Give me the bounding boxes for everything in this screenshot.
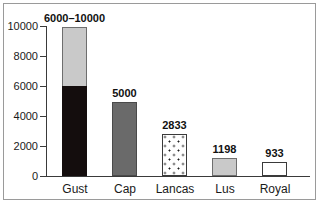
bar-label-gust: 6000–10000 [33,12,116,24]
y-tick-10000 [40,26,46,27]
x-label-royal: Royal [248,182,302,196]
x-label-gust: Gust [50,182,100,196]
y-tick-0 [40,176,46,177]
x-label-lus: Lus [200,182,250,196]
y-tick-label-4000: 4000 [0,111,38,122]
y-tick-label-2000: 2000 [0,141,38,152]
bar-label-cap: 5000 [100,87,149,99]
bar-label-lus: 1198 [200,143,249,155]
y-axis-line [46,26,47,177]
y-tick-4000 [40,116,46,117]
x-label-lancas: Lancas [147,182,203,196]
plot-area: 0 2000 4000 6000 8000 10000 6000–10000 G… [0,0,323,213]
y-axis-labels: 0 2000 4000 6000 8000 10000 [0,0,38,213]
bar-royal [262,162,287,176]
bar-chart-figure: 0 2000 4000 6000 8000 10000 6000–10000 G… [0,0,323,213]
bar-label-lancas: 2833 [150,119,199,131]
bar-gust-upper [62,27,87,87]
bar-lancas [162,134,187,176]
y-tick-label-0: 0 [0,171,38,182]
bar-cap [112,102,137,176]
y-tick-8000 [40,56,46,57]
x-label-cap: Cap [100,182,150,196]
bar-lus [212,158,237,176]
y-tick-label-8000: 8000 [0,51,38,62]
x-axis-line [46,176,310,177]
y-tick-6000 [40,86,46,87]
y-tick-2000 [40,146,46,147]
bar-label-royal: 933 [250,147,299,159]
bar-gust-lower [62,86,87,176]
y-tick-label-6000: 6000 [0,81,38,92]
